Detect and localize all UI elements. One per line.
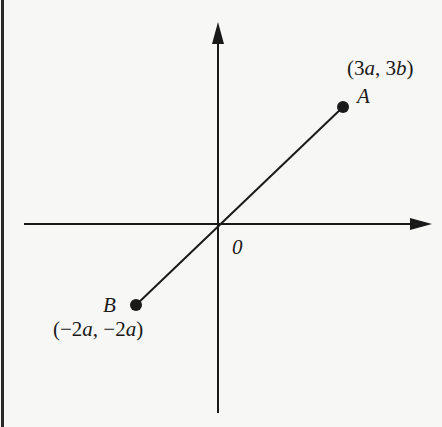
point-a-label: A <box>357 86 370 107</box>
point-a-coordinates: (3a, 3b) <box>347 58 414 79</box>
point-b-dot <box>130 299 142 311</box>
coord-text: (3 <box>347 56 365 80</box>
coord-text: ) <box>136 317 143 341</box>
coord-var: b <box>396 56 407 80</box>
coord-var: a <box>365 56 376 80</box>
point-b-label: B <box>103 295 116 316</box>
origin-label: 0 <box>232 237 243 258</box>
segment-ab <box>136 107 343 305</box>
coord-text: , 3 <box>375 56 396 80</box>
x-axis-arrow-icon <box>410 218 432 230</box>
point-b-coordinates: (−2a, −2a) <box>53 319 143 340</box>
y-axis-arrow-icon <box>212 22 224 44</box>
coord-var: a <box>126 317 137 341</box>
coord-text: (−2 <box>53 317 82 341</box>
point-a-dot <box>337 101 349 113</box>
coord-text: , −2 <box>93 317 126 341</box>
left-border <box>1 0 4 427</box>
coord-var: a <box>82 317 93 341</box>
coord-text: ) <box>407 56 414 80</box>
